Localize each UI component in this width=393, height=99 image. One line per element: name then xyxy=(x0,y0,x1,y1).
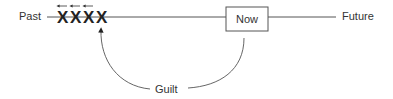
past-marks: X X X X xyxy=(57,8,108,27)
now-label: Now xyxy=(236,13,258,25)
guilt-label: Guilt xyxy=(155,83,178,95)
guilt-curve-right xyxy=(188,38,244,88)
x-mark: X xyxy=(83,8,95,27)
timeline-diagram: Past X X X X Now Future Guilt xyxy=(0,0,393,99)
x-mark: X xyxy=(70,8,82,27)
x-mark: X xyxy=(57,8,69,27)
past-label: Past xyxy=(19,10,41,22)
x-mark: X xyxy=(96,8,108,27)
future-label: Future xyxy=(342,10,374,22)
guilt-curve-left xyxy=(101,30,150,89)
